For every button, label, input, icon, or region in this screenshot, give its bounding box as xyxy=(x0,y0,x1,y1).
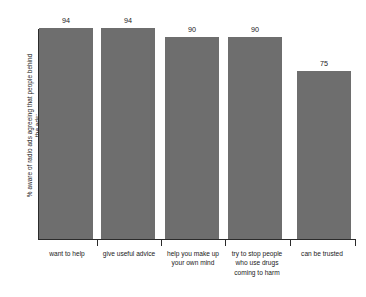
x-axis-category-label: can be trusted xyxy=(291,249,353,258)
bar-rect xyxy=(101,28,155,239)
bar-chart: % aware of radio ads agreeing that peopl… xyxy=(0,0,366,297)
bar-value-label: 94 xyxy=(101,16,155,25)
bar-rect xyxy=(297,71,351,239)
x-axis-category-label: give useful advice xyxy=(98,249,160,258)
plot-area: 94 94 90 90 75 xyxy=(38,8,356,239)
bar-rect xyxy=(165,37,219,239)
x-axis-tick xyxy=(97,239,98,246)
x-axis-tick xyxy=(355,239,356,246)
x-axis-category-label: help you make up your own mind xyxy=(162,249,224,268)
bar-value-label: 90 xyxy=(165,25,219,34)
x-axis-tick xyxy=(290,239,291,246)
x-axis-tick xyxy=(161,239,162,246)
bar-value-label: 75 xyxy=(297,59,351,68)
x-axis-tick xyxy=(225,239,226,246)
bar-value-label: 90 xyxy=(228,25,282,34)
bar-rect xyxy=(39,28,93,239)
x-axis-line xyxy=(38,239,356,240)
x-axis-category-label: try to stop people who use drugs coming … xyxy=(226,249,288,277)
bar-rect xyxy=(228,37,282,239)
bar-value-label: 94 xyxy=(39,16,93,25)
x-axis-category-label: want to help xyxy=(36,249,98,258)
